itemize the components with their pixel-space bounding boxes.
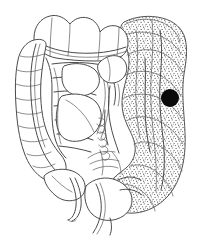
region-transverse-colon xyxy=(34,15,128,61)
region-cecum xyxy=(44,169,85,201)
region-rectum xyxy=(85,178,132,235)
anatomy-figure: Large intestine (colon) anatomical diagr… xyxy=(0,0,199,241)
colon-diagram-svg xyxy=(0,0,199,241)
lesion-marker xyxy=(161,89,179,107)
